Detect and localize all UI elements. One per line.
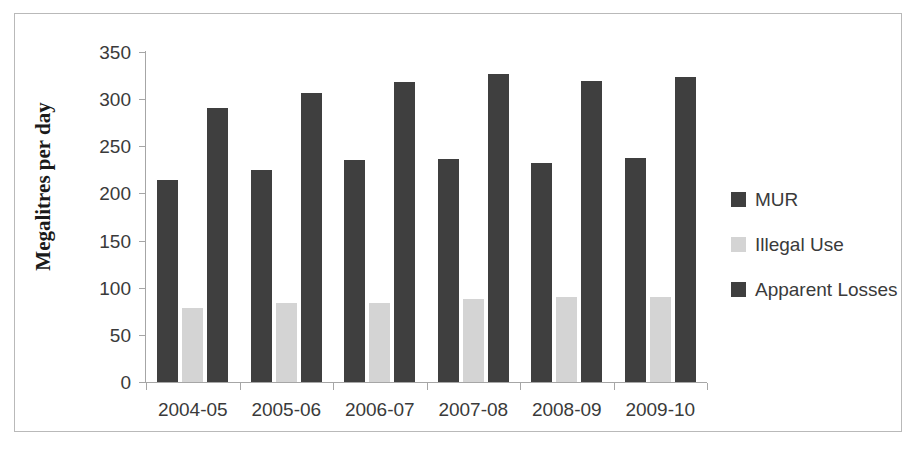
- bar-mur-2006-07[interactable]: [344, 160, 365, 383]
- y-axis-tick-label: 350: [83, 43, 131, 62]
- x-axis-tick-label: 2008-09: [520, 400, 614, 419]
- y-axis-tick: [139, 382, 145, 383]
- x-axis-tick: [707, 383, 708, 390]
- bar-apparent-losses-2006-07[interactable]: [394, 82, 415, 382]
- y-axis-tick-label: 200: [83, 184, 131, 203]
- y-axis-tick-label: 250: [83, 137, 131, 156]
- bar-apparent-losses-2008-09[interactable]: [581, 81, 602, 382]
- legend-swatch-icon: [731, 192, 746, 207]
- bar-group: [614, 52, 708, 382]
- x-axis-tick: [333, 383, 334, 390]
- bar-mur-2009-10[interactable]: [625, 158, 646, 382]
- y-axis-tick-label: 100: [83, 279, 131, 298]
- y-axis-tick-label: 50: [83, 326, 131, 345]
- bar-mur-2005-06[interactable]: [251, 170, 272, 382]
- bar-group: [146, 52, 240, 382]
- y-axis-title: Megalitres per day: [31, 37, 56, 337]
- x-axis-tick: [614, 383, 615, 390]
- x-axis-tick: [146, 383, 147, 390]
- bar-illegal-use-2005-06[interactable]: [276, 303, 297, 382]
- legend-item-illegal-use[interactable]: Illegal Use: [731, 235, 898, 253]
- x-axis-tick-label: 2007-08: [427, 400, 521, 419]
- y-axis-tick-label: 150: [83, 232, 131, 251]
- bar-apparent-losses-2009-10[interactable]: [675, 77, 696, 382]
- bar-group: [240, 52, 334, 382]
- y-axis-tick: [139, 99, 145, 100]
- x-axis-tick: [240, 383, 241, 390]
- legend-label: Illegal Use: [755, 235, 844, 254]
- bar-mur-2007-08[interactable]: [438, 159, 459, 382]
- y-axis-tick-label: 0: [83, 373, 131, 392]
- bar-apparent-losses-2007-08[interactable]: [488, 74, 509, 382]
- y-axis-tick: [139, 193, 145, 194]
- y-axis-tick: [139, 335, 145, 336]
- bar-apparent-losses-2004-05[interactable]: [207, 108, 228, 382]
- legend-item-apparent-losses[interactable]: Apparent Losses: [731, 280, 898, 298]
- y-axis-tick: [139, 52, 145, 53]
- x-axis-tick: [427, 383, 428, 390]
- legend-item-mur[interactable]: MUR: [731, 190, 898, 208]
- y-axis-tick: [139, 146, 145, 147]
- bar-mur-2004-05[interactable]: [157, 180, 178, 382]
- y-axis-tick: [139, 241, 145, 242]
- x-axis-tick: [520, 383, 521, 390]
- y-axis-tick-label: 300: [83, 90, 131, 109]
- legend-swatch-icon: [731, 237, 746, 252]
- bar-mur-2008-09[interactable]: [531, 163, 552, 382]
- x-axis-tick-label: 2005-06: [240, 400, 334, 419]
- bar-illegal-use-2008-09[interactable]: [556, 297, 577, 382]
- legend-swatch-icon: [731, 282, 746, 297]
- legend-label: MUR: [755, 190, 798, 209]
- x-axis-tick-label: 2006-07: [333, 400, 427, 419]
- plot-area: [146, 52, 707, 382]
- x-axis-tick-label: 2009-10: [614, 400, 708, 419]
- bar-group: [520, 52, 614, 382]
- bar-group: [427, 52, 521, 382]
- bar-apparent-losses-2005-06[interactable]: [301, 93, 322, 382]
- x-axis-tick-label: 2004-05: [146, 400, 240, 419]
- bar-illegal-use-2009-10[interactable]: [650, 297, 671, 382]
- bar-group: [333, 52, 427, 382]
- legend-label: Apparent Losses: [755, 280, 898, 299]
- y-axis-tick: [139, 288, 145, 289]
- chart-legend: MURIllegal UseApparent Losses: [731, 190, 898, 325]
- chart-frame: Megalitres per day 350300250200150100500…: [14, 13, 902, 432]
- bar-illegal-use-2007-08[interactable]: [463, 299, 484, 382]
- bar-illegal-use-2004-05[interactable]: [182, 308, 203, 382]
- bar-illegal-use-2006-07[interactable]: [369, 303, 390, 382]
